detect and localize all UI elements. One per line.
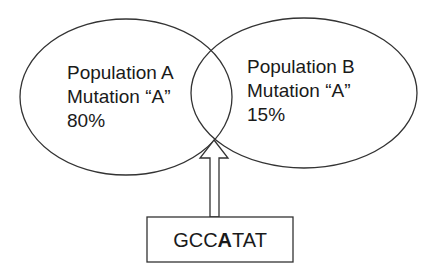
sequence-label: GCCATAT xyxy=(173,229,267,251)
sequence-mutation-base: A xyxy=(218,229,232,251)
population-b-name: Population B xyxy=(247,56,355,77)
population-a-frequency: 80% xyxy=(67,110,105,131)
population-b-frequency: 15% xyxy=(247,104,285,125)
population-b-mutation: Mutation “A” xyxy=(247,80,350,101)
sequence-prefix: GCC xyxy=(173,229,217,251)
population-a-mutation: Mutation “A” xyxy=(67,86,170,107)
hollow-arrow-up-icon xyxy=(200,140,228,217)
venn-diagram: Population A Mutation “A” 80% Population… xyxy=(0,0,434,276)
population-a-name: Population A xyxy=(67,62,174,83)
sequence-suffix: TAT xyxy=(232,229,267,251)
